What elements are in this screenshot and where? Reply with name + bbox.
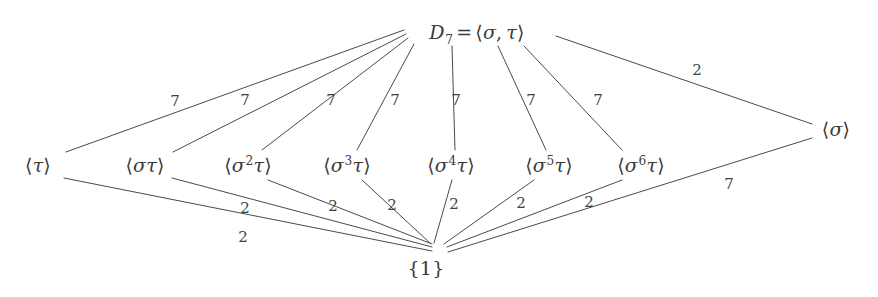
edge-top-tau — [66, 30, 404, 152]
node-label-sigma6-tau: ⟨σ6τ⟩ — [617, 156, 665, 175]
edge-top-st — [173, 34, 406, 152]
edge-label-top-tau: 7 — [170, 94, 180, 109]
edge-label-s4t-trivial: 2 — [449, 197, 459, 212]
edge-label-st-trivial: 2 — [240, 201, 250, 216]
edge-layer — [0, 0, 878, 297]
node-label-d7: D7=⟨σ, τ⟩ — [429, 23, 524, 42]
edge-label-s6t-trivial: 2 — [584, 195, 594, 210]
edge-top-s3t — [357, 44, 414, 150]
edge-label-top-st: 7 — [240, 93, 250, 108]
edge-label-top-s4t: 7 — [451, 93, 461, 108]
edge-label-top-sigma: 2 — [692, 63, 702, 78]
edge-label-s5t-trivial: 2 — [516, 196, 526, 211]
node-label-sigma: ⟨σ⟩ — [822, 120, 850, 139]
node-label-sigma5-tau: ⟨σ5τ⟩ — [525, 156, 573, 175]
node-label-sigma2-tau: ⟨σ2τ⟩ — [224, 156, 272, 175]
edge-label-top-s6t: 7 — [593, 93, 603, 108]
edge-label-top-s5t: 7 — [526, 93, 536, 108]
edge-label-s2t-trivial: 2 — [328, 199, 338, 214]
edge-top-sigma — [556, 36, 812, 124]
edge-label-s3t-trivial: 2 — [387, 198, 397, 213]
edge-label-sigma-trivial: 7 — [724, 177, 734, 192]
node-label-tau: ⟨τ⟩ — [25, 156, 51, 175]
node-label-sigma4-tau: ⟨σ4τ⟩ — [427, 156, 475, 175]
edge-s6t-trivial — [447, 180, 622, 247]
edge-label-top-s3t: 7 — [390, 93, 400, 108]
edge-label-tau-trivial: 2 — [238, 230, 248, 245]
node-label-sigma-tau: ⟨στ⟩ — [125, 156, 164, 175]
edge-label-top-s2t: 7 — [326, 93, 336, 108]
node-label-sigma3-tau: ⟨σ3τ⟩ — [323, 156, 371, 175]
subgroup-lattice-diagram: D7=⟨σ, τ⟩ ⟨τ⟩ ⟨στ⟩ ⟨σ2τ⟩ ⟨σ3τ⟩ ⟨σ4τ⟩ ⟨σ5… — [0, 0, 878, 297]
node-label-trivial: {1} — [408, 259, 445, 278]
